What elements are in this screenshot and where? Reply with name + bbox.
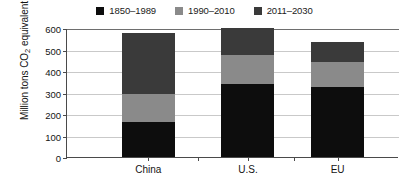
y-axis-title-prefix: Million tons CO bbox=[19, 53, 30, 120]
y-axis-tick bbox=[63, 158, 67, 159]
bar-segment bbox=[311, 62, 364, 87]
chart-legend: 1850–1989 1990–2010 2011–2030 bbox=[0, 6, 409, 16]
y-axis-tick-label: 400 bbox=[45, 67, 61, 78]
x-axis-tick bbox=[294, 157, 295, 161]
chart-figure: 1850–1989 1990–2010 2011–2030 Million to… bbox=[0, 0, 409, 191]
bar-segment bbox=[221, 55, 274, 84]
bar-segment bbox=[311, 87, 364, 157]
bar-segment bbox=[311, 42, 364, 63]
bar-segment bbox=[122, 33, 175, 93]
y-axis-title-suffix: equivalent bbox=[19, 1, 30, 49]
legend-item-2011-2030: 2011–2030 bbox=[254, 6, 313, 16]
x-axis-tick-label: EU bbox=[331, 164, 345, 175]
plot-area: 0100200300400500600ChinaU.S.EU bbox=[66, 29, 398, 158]
y-axis-tick-label: 200 bbox=[45, 110, 61, 121]
bar-u-s bbox=[221, 28, 274, 157]
legend-label-2011-2030: 2011–2030 bbox=[267, 6, 313, 16]
x-axis-tick bbox=[248, 157, 249, 161]
legend-item-1850-1989: 1850–1989 bbox=[96, 6, 156, 16]
y-axis-tick-label: 0 bbox=[56, 153, 61, 164]
legend-swatch-2011-2030 bbox=[254, 7, 262, 15]
legend-label-1850-1989: 1850–1989 bbox=[109, 6, 156, 16]
legend-item-1990-2010: 1990–2010 bbox=[175, 6, 235, 16]
bar-china bbox=[122, 33, 175, 157]
x-axis-tick-label: U.S. bbox=[238, 164, 257, 175]
x-axis-tick bbox=[148, 157, 149, 161]
y-axis-title-subscript: 2 bbox=[23, 49, 32, 53]
y-axis-tick-label: 500 bbox=[45, 45, 61, 56]
y-axis-tick bbox=[63, 29, 67, 30]
legend-swatch-1850-1989 bbox=[96, 7, 104, 15]
y-axis-tick-label: 100 bbox=[45, 131, 61, 142]
bar-segment bbox=[122, 122, 175, 157]
y-axis-tick bbox=[63, 94, 67, 95]
y-axis-tick bbox=[63, 51, 67, 52]
x-axis-tick bbox=[198, 157, 199, 161]
x-axis-tick bbox=[338, 157, 339, 161]
bar-segment bbox=[221, 28, 274, 55]
legend-label-1990-2010: 1990–2010 bbox=[188, 6, 235, 16]
bar-segment bbox=[122, 94, 175, 122]
bar-segment bbox=[221, 84, 274, 157]
y-axis-title: Million tons CO2 equivalent bbox=[19, 0, 30, 131]
y-axis-tick-label: 300 bbox=[45, 88, 61, 99]
y-axis-tick bbox=[63, 72, 67, 73]
y-axis-tick bbox=[63, 115, 67, 116]
y-axis-tick-label: 600 bbox=[45, 24, 61, 35]
bar-eu bbox=[311, 42, 364, 157]
x-axis-tick-label: China bbox=[135, 164, 161, 175]
legend-swatch-1990-2010 bbox=[175, 7, 183, 15]
y-axis-tick bbox=[63, 137, 67, 138]
